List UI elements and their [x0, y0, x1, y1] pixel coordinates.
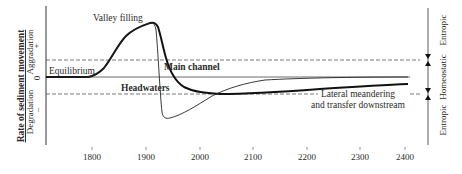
x-tick-2200: 2200	[298, 152, 317, 162]
x-tick-2400: 2400	[396, 152, 415, 162]
transfer-downstream-label: and transfer downstream	[311, 100, 406, 110]
degradation-label: Degradation	[25, 89, 35, 134]
x-tick-2000: 2000	[191, 152, 210, 162]
zone-entropic-bottom: Entropic	[438, 105, 448, 136]
main-channel-label: Main channel	[164, 62, 220, 72]
sediment-chart: + 0 – Rate of sediment movement Aggradat…	[0, 0, 462, 174]
valley-filling-label: Valley filling	[93, 13, 143, 23]
zone-entropic-top: Entropic	[438, 15, 448, 46]
headwaters-label: Headwaters	[121, 83, 170, 93]
x-tick-2300: 2300	[351, 152, 370, 162]
equilibrium-label: Equilibrium	[49, 66, 96, 76]
lateral-meandering-label: Lateral meandering	[321, 89, 395, 99]
x-tick-1900: 1900	[137, 152, 156, 162]
x-axis-ticks	[92, 147, 405, 150]
x-tick-1800: 1800	[83, 152, 102, 162]
zone-homeostatic: Homeostatic	[438, 54, 448, 100]
x-tick-2100: 2100	[244, 152, 263, 162]
aggradation-label: Aggradation	[25, 29, 35, 74]
main-channel-curve	[46, 23, 408, 94]
y-tick-zero: 0	[32, 75, 42, 80]
